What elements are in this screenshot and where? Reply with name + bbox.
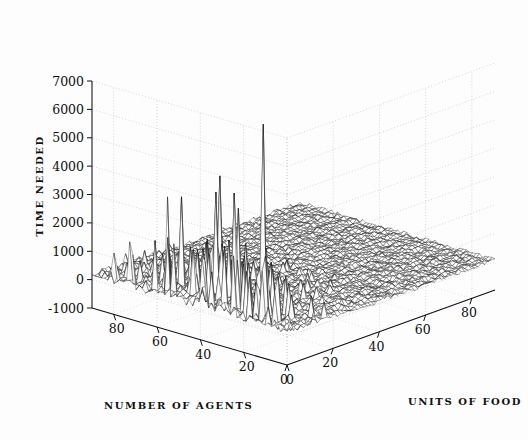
- y-tick-label: 80: [461, 305, 477, 320]
- z-tick-label: 4000: [52, 159, 84, 174]
- x-tick-label: 60: [152, 334, 168, 349]
- y-tick-label: 0: [280, 372, 288, 387]
- z-axis-title: TIME NEEDED: [34, 147, 45, 237]
- z-tick-label: -1000: [48, 301, 84, 316]
- surface-plot-figure: -100001000200030004000500060007000020406…: [0, 0, 528, 440]
- x-tick-label: 20: [239, 359, 255, 374]
- z-tick-label: 3000: [52, 187, 84, 202]
- plot-canvas: -100001000200030004000500060007000020406…: [0, 0, 528, 440]
- z-tick-label: 1000: [52, 244, 84, 259]
- y-tick-label: 60: [415, 322, 431, 337]
- z-tick-label: 5000: [52, 130, 84, 145]
- z-tick-label: 6000: [52, 102, 84, 117]
- y-tick-label: 40: [368, 339, 384, 354]
- y-tick-label: 20: [322, 355, 338, 370]
- y-axis-title: UNITS OF FOOD: [408, 396, 522, 407]
- z-tick-label: 7000: [52, 74, 84, 89]
- x-tick-label: 40: [195, 347, 211, 362]
- z-tick-label: 0: [76, 272, 84, 287]
- x-tick-label: 80: [109, 321, 125, 336]
- mesh-surface: [92, 124, 495, 331]
- x-axis-title: NUMBER OF AGENTS: [104, 400, 253, 411]
- z-tick-label: 2000: [52, 215, 84, 230]
